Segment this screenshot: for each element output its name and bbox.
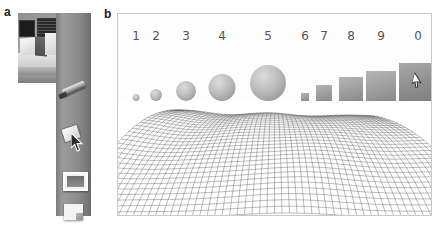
panel-label-b: b: [104, 8, 111, 20]
wireframe-terrain-svg: [118, 102, 431, 216]
page-tool-button[interactable]: [56, 195, 91, 228]
panel-b: 1234567890: [117, 13, 432, 216]
eraser-tool-button[interactable]: [56, 118, 91, 156]
item-shape-3: [176, 81, 196, 101]
item-shape-row: [118, 56, 432, 101]
panel-label-a: a: [4, 6, 11, 18]
item-shape-2: [150, 89, 162, 101]
item-number-1: 1: [132, 30, 140, 42]
item-number-9: 9: [377, 30, 385, 42]
item-shape-7: [316, 85, 332, 101]
item-number-row: 1234567890: [118, 30, 432, 48]
tool-palette[interactable]: [56, 13, 91, 216]
item-shape-1: [133, 94, 140, 101]
pen-tip-icon: [58, 92, 67, 100]
paper-sheet-left: [20, 37, 35, 56]
pen-tool-button[interactable]: [56, 75, 91, 113]
page-fold-corner: [76, 213, 83, 220]
item-number-6: 6: [301, 30, 309, 42]
item-number-0: 0: [414, 30, 422, 42]
item-shape-8: [339, 77, 363, 101]
window-icon: [63, 172, 88, 191]
item-shape-5: [250, 65, 286, 101]
item-number-7: 7: [320, 30, 328, 42]
wireframe-terrain: [118, 102, 431, 216]
item-number-2: 2: [152, 30, 160, 42]
item-number-5: 5: [264, 30, 272, 42]
item-shape-9: [366, 71, 396, 101]
cursor-arrow-icon: [71, 133, 85, 152]
cursor-arrow-icon: [411, 73, 425, 90]
monitor-left-icon: [19, 20, 35, 37]
item-number-3: 3: [182, 30, 190, 42]
item-shape-6: [301, 93, 309, 101]
item-number-8: 8: [347, 30, 355, 42]
window-inner-fill: [67, 176, 84, 187]
page-icon: [64, 204, 83, 220]
item-shape-4: [209, 74, 236, 101]
item-number-4: 4: [218, 30, 226, 42]
panel-a: [18, 13, 91, 216]
item-shape-0: [399, 63, 432, 101]
